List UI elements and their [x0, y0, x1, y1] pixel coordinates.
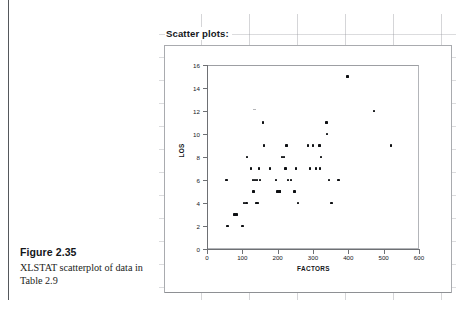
scatter-point: [346, 75, 348, 77]
y-tick-label: 14: [193, 85, 200, 92]
scatter-point: [315, 167, 317, 169]
y-tick-label: 10: [193, 131, 200, 138]
scatter-point: [295, 167, 297, 169]
scatter-point: [390, 144, 392, 146]
scatter-point: [262, 121, 264, 123]
y-tick-label-wrap: 8: [183, 154, 200, 161]
x-tick-label: 400: [337, 254, 359, 261]
y-tick-mark: [203, 88, 207, 89]
spreadsheet-title-cell: Scatter plots:: [165, 27, 232, 40]
y-tick-label-wrap: 0: [183, 246, 200, 253]
scatter-point: [235, 213, 237, 215]
x-tick-label: 100: [231, 254, 253, 261]
scatter-point: [226, 225, 228, 227]
x-tick-label: 500: [373, 254, 395, 261]
x-tick-label: 0: [196, 254, 218, 261]
y-tick-mark: [203, 203, 207, 204]
y-tick-mark: [203, 134, 207, 135]
y-tick-mark: [203, 111, 207, 112]
scatter-point: [319, 167, 321, 169]
chart-object[interactable]: 0246810121416 0100200300400500600 FACTOR…: [164, 45, 452, 293]
y-axis-line: [207, 65, 208, 250]
scan-artifact: [253, 109, 256, 110]
plot-area: [207, 65, 419, 249]
x-tick-label: 200: [267, 254, 289, 261]
scatter-point: [279, 190, 281, 192]
scatter-point: [284, 167, 286, 169]
x-axis-title: FACTORS: [207, 265, 420, 272]
spreadsheet-screenshot: Scatter plots: 0246810121416 01002003004…: [159, 14, 456, 300]
y-tick-label-wrap: 14: [183, 85, 200, 92]
scatter-point: [318, 144, 320, 146]
y-tick-mark: [203, 157, 207, 158]
scatter-point: [245, 202, 247, 204]
scatter-point: [307, 144, 309, 146]
y-tick-label-wrap: 16: [183, 62, 200, 69]
figure-caption: Figure 2.35 XLSTAT scatterplot of data i…: [20, 246, 148, 287]
y-axis-title: LOS: [178, 143, 185, 157]
y-tick-label-wrap: 2: [183, 223, 200, 230]
figure-number: Figure 2.35: [20, 246, 148, 258]
figure-description: XLSTAT scatterplot of data in Table 2.9: [20, 261, 148, 287]
y-tick-mark: [203, 226, 207, 227]
scatter-point: [250, 167, 252, 169]
scatter-point: [285, 144, 287, 146]
scatter-point: [293, 190, 295, 192]
y-tick-label-wrap: 6: [183, 177, 200, 184]
y-tick-label: 6: [197, 177, 200, 184]
y-tick-label-wrap: 12: [183, 108, 200, 115]
scatter-point: [312, 144, 314, 146]
scatter-point: [258, 167, 260, 169]
y-tick-label: 4: [197, 200, 200, 207]
y-tick-mark: [203, 180, 207, 181]
y-tick-label-wrap: 10: [183, 131, 200, 138]
y-tick-label: 16: [193, 62, 200, 69]
y-tick-label-wrap: 4: [183, 200, 200, 207]
y-tick-mark: [203, 65, 207, 66]
y-tick-label: 12: [193, 108, 200, 115]
y-tick-label: 2: [197, 223, 200, 230]
y-tick-label: 8: [197, 154, 200, 161]
scatter-point: [252, 190, 254, 192]
scatter-point: [269, 167, 271, 169]
page-margin-rule: [8, 0, 9, 300]
x-tick-label: 300: [302, 254, 324, 261]
y-tick-label: 0: [197, 246, 200, 253]
scatter-point: [325, 121, 327, 123]
x-tick-label: 600: [408, 254, 430, 261]
scatter-point: [337, 179, 339, 181]
